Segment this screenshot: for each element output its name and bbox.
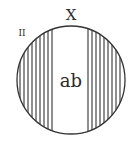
top-label: X bbox=[66, 6, 77, 24]
circle-diagram: X ab II bbox=[0, 0, 133, 143]
center-label: ab bbox=[60, 70, 82, 91]
left-hatched-region bbox=[20, 26, 52, 134]
corner-mark: II bbox=[18, 28, 26, 38]
right-hatched-region bbox=[88, 26, 120, 134]
